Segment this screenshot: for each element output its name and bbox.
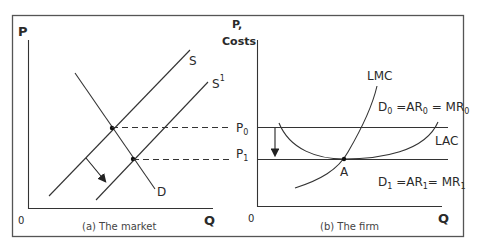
lmc-label: LMC xyxy=(367,69,392,83)
supply-shift-arrow xyxy=(86,158,105,181)
lac-label: LAC xyxy=(435,134,458,148)
demand-curve xyxy=(75,73,155,189)
firm-panel: P, Costs Q 0 P0 P1 LAC LMC D0 =AR0 = MR0… xyxy=(222,18,469,232)
firm-x-axis-label: Q xyxy=(438,211,449,226)
market-caption: (a) The market xyxy=(82,221,156,232)
long-run-equilibrium-point xyxy=(342,157,346,161)
firm-caption: (b) The firm xyxy=(320,221,379,232)
market-x-axis-label: Q xyxy=(204,213,215,228)
p1-label: P1 xyxy=(236,147,248,163)
supply-shifted-curve xyxy=(96,82,208,200)
lmc-curve xyxy=(295,86,377,188)
supply-label: S xyxy=(189,54,197,68)
market-panel: P Q 0 S S1 D (a) The market xyxy=(18,24,232,232)
p0-label: P0 xyxy=(236,121,248,137)
perfect-competition-diagram: P Q 0 S S1 D (a) The market P, Costs Q 0 xyxy=(0,0,477,249)
firm-origin-label: 0 xyxy=(248,213,254,224)
d0-ar0-mr0-label: D0 =AR0 = MR0 xyxy=(378,100,469,116)
market-y-axis-label: P xyxy=(18,24,28,39)
market-origin-label: 0 xyxy=(18,215,24,226)
d1-ar1-mr1-label: D1 =AR1= MR1 xyxy=(378,175,466,191)
firm-y-axis-label-costs: Costs xyxy=(222,35,256,48)
supply-shifted-label: S1 xyxy=(212,74,225,91)
demand-label: D xyxy=(157,185,166,199)
firm-y-axis-label: P, xyxy=(232,18,242,31)
point-a-label: A xyxy=(340,165,349,179)
